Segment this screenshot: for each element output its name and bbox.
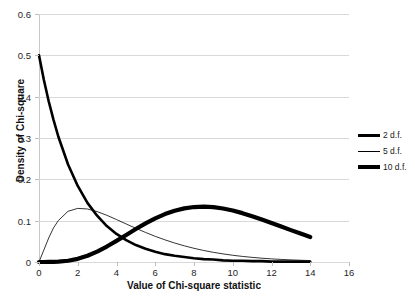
y-tick-mark	[35, 221, 39, 222]
x-tick-label: 14	[297, 267, 323, 278]
x-tick-mark	[155, 262, 156, 266]
x-tick-mark	[349, 262, 350, 266]
plot-area	[39, 14, 349, 262]
y-tick-mark	[35, 14, 39, 15]
y-tick-mark	[35, 97, 39, 98]
chi-square-density-chart: 0246810121416 00.10.20.30.40.50.6 Value …	[0, 0, 415, 296]
x-tick-label: 0	[26, 267, 52, 278]
legend-entry: 2 d.f.	[358, 127, 415, 143]
x-tick-mark	[194, 262, 195, 266]
x-tick-mark	[233, 262, 234, 266]
legend-swatch	[358, 134, 380, 137]
legend-label: 10 d.f.	[383, 162, 407, 172]
x-tick-label: 12	[259, 267, 285, 278]
x-tick-label: 16	[336, 267, 362, 278]
legend-entry: 10 d.f.	[358, 159, 415, 175]
y-tick-mark	[35, 55, 39, 56]
x-tick-label: 4	[104, 267, 130, 278]
y-tick-mark	[35, 179, 39, 180]
legend-swatch	[358, 151, 380, 152]
chart-legend: 2 d.f.5 d.f.10 d.f.	[358, 127, 415, 175]
x-axis-title: Value of Chi-square statistic	[39, 280, 349, 291]
x-tick-mark	[78, 262, 79, 266]
y-tick-label: 0.1	[3, 216, 31, 227]
x-tick-label: 2	[65, 267, 91, 278]
series-line	[39, 207, 310, 262]
y-tick-mark	[35, 138, 39, 139]
x-tick-label: 10	[220, 267, 246, 278]
series-line	[39, 55, 310, 261]
y-tick-label: 0	[3, 257, 31, 268]
legend-label: 2 d.f.	[383, 130, 402, 140]
x-tick-mark	[272, 262, 273, 266]
y-tick-label: 0.6	[3, 9, 31, 20]
x-tick-mark	[39, 262, 40, 266]
y-axis-title: Density of Chi-square	[15, 56, 26, 206]
legend-swatch	[358, 165, 380, 169]
x-tick-mark	[310, 262, 311, 266]
legend-label: 5 d.f.	[383, 146, 402, 156]
x-tick-mark	[117, 262, 118, 266]
y-tick-mark	[35, 262, 39, 263]
x-tick-label: 8	[181, 267, 207, 278]
x-tick-label: 6	[142, 267, 168, 278]
legend-entry: 5 d.f.	[358, 143, 415, 159]
series-layer	[39, 14, 349, 262]
series-line	[39, 208, 310, 262]
